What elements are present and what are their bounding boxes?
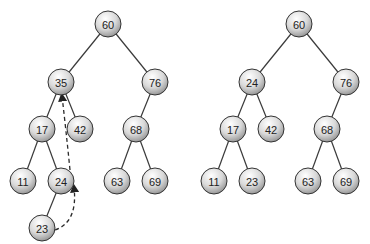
node-label: 69 bbox=[340, 176, 352, 188]
tree-node: 11 bbox=[10, 168, 36, 194]
tree-diagram-canvas: 6035761742681124636923602476174268112363… bbox=[0, 0, 370, 244]
node-label: 63 bbox=[111, 176, 123, 188]
tree-node: 11 bbox=[201, 168, 227, 194]
node-label: 17 bbox=[36, 124, 48, 136]
node-label: 60 bbox=[293, 19, 305, 31]
tree-node: 35 bbox=[48, 69, 74, 95]
tree-node: 76 bbox=[333, 69, 359, 95]
tree-node: 23 bbox=[239, 168, 265, 194]
node-label: 23 bbox=[246, 176, 258, 188]
node-label: 42 bbox=[74, 124, 86, 136]
node-label: 68 bbox=[130, 124, 142, 136]
node-label: 24 bbox=[246, 77, 258, 89]
tree-node: 76 bbox=[142, 69, 168, 95]
tree-node: 24 bbox=[239, 69, 265, 95]
node-label: 23 bbox=[36, 223, 48, 235]
tree-node: 69 bbox=[333, 168, 359, 194]
node-label: 42 bbox=[265, 124, 277, 136]
tree-node: 23 bbox=[29, 215, 55, 241]
node-label: 68 bbox=[321, 124, 333, 136]
tree-node: 69 bbox=[142, 168, 168, 194]
tree-node: 42 bbox=[258, 116, 284, 142]
tree-node: 17 bbox=[220, 116, 246, 142]
node-label: 24 bbox=[55, 176, 67, 188]
node-label: 60 bbox=[102, 19, 114, 31]
tree-node: 17 bbox=[29, 116, 55, 142]
tree-node: 68 bbox=[123, 116, 149, 142]
nodes-layer: 6035761742681124636923602476174268112363… bbox=[10, 11, 359, 241]
node-label: 63 bbox=[302, 176, 314, 188]
tree-node: 68 bbox=[314, 116, 340, 142]
node-label: 35 bbox=[55, 77, 67, 89]
tree-node: 63 bbox=[104, 168, 130, 194]
dashed-arrows-layer bbox=[55, 96, 75, 230]
node-label: 76 bbox=[340, 77, 352, 89]
tree-node: 24 bbox=[48, 168, 74, 194]
tree-node: 63 bbox=[295, 168, 321, 194]
node-label: 17 bbox=[227, 124, 239, 136]
node-label: 69 bbox=[149, 176, 161, 188]
tree-node: 60 bbox=[95, 11, 121, 37]
node-label: 11 bbox=[208, 176, 219, 188]
node-label: 11 bbox=[17, 176, 28, 188]
tree-node: 42 bbox=[67, 116, 93, 142]
node-label: 76 bbox=[149, 77, 161, 89]
tree-node: 60 bbox=[286, 11, 312, 37]
